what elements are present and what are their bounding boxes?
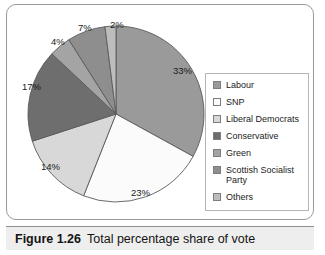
legend-item: Conservative: [213, 131, 308, 141]
pie-slice-label: 7%: [78, 22, 92, 33]
pie-slice-label: 4%: [51, 36, 65, 47]
legend-item: Labour: [213, 80, 308, 90]
legend-swatch-icon: [213, 166, 221, 174]
legend-swatch-icon: [213, 132, 221, 140]
legend-swatch-icon: [213, 98, 221, 106]
legend-swatch-icon: [213, 193, 221, 201]
caption-figure-number: Figure 1.26: [15, 232, 81, 246]
legend-item: Others: [213, 192, 308, 202]
legend-swatch-icon: [213, 115, 221, 123]
legend-item: Green: [213, 148, 308, 158]
pie-slice-label: 23%: [131, 187, 150, 198]
legend-item-label: Liberal Democrats: [226, 114, 299, 124]
legend-item-label: Green: [226, 148, 251, 158]
legend-item-label: Others: [226, 192, 253, 202]
pie-slice-label: 17%: [22, 81, 41, 92]
legend-swatch-icon: [213, 81, 221, 89]
legend-item-label: Labour: [226, 80, 254, 90]
figure-caption: Figure 1.26 Total percentage share of vo…: [6, 226, 314, 250]
pie-slice-label: 33%: [173, 65, 192, 76]
legend-item: SNP: [213, 97, 308, 107]
chart-legend: LabourSNPLiberal DemocratsConservativeGr…: [205, 73, 309, 211]
pie-chart: 33%23%14%17%4%7%2%: [21, 19, 211, 209]
pie-slice-label: 14%: [41, 161, 60, 172]
pie-chart-svg: [21, 19, 211, 209]
legend-item: Liberal Democrats: [213, 114, 308, 124]
pie-slices: [28, 26, 204, 202]
legend-item-label: SNP: [226, 97, 245, 107]
chart-panel: 33%23%14%17%4%7%2% LabourSNPLiberal Demo…: [6, 4, 314, 220]
legend-swatch-icon: [213, 149, 221, 157]
legend-item-label: Scottish Socialist Party: [226, 165, 304, 185]
figure-container: 33%23%14%17%4%7%2% LabourSNPLiberal Demo…: [0, 0, 325, 255]
caption-description: Total percentage share of vote: [87, 232, 255, 246]
legend-item-label: Conservative: [226, 131, 279, 141]
legend-item: Scottish Socialist Party: [213, 165, 308, 185]
pie-slice-label: 2%: [110, 19, 124, 30]
